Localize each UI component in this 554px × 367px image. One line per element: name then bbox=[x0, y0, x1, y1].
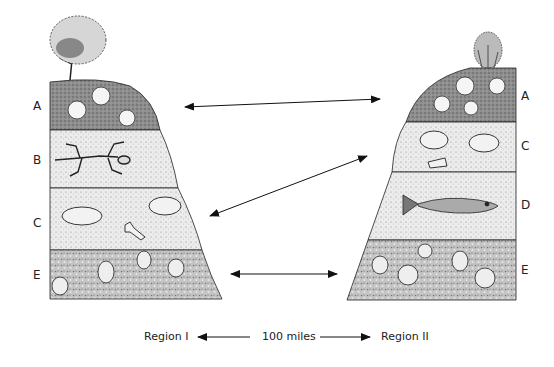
layer-label-a-region-1: A bbox=[33, 99, 41, 113]
region-1-caption: Region I bbox=[144, 330, 188, 343]
tree-icon bbox=[50, 16, 106, 80]
diagram-canvas: A B C E A C D E Region I 100 miles Regio… bbox=[0, 0, 554, 367]
arrow-c-to-c bbox=[210, 156, 367, 216]
layer-label-e-region-1: E bbox=[33, 268, 41, 282]
region-2-column bbox=[347, 32, 516, 300]
layer-label-b-region-1: B bbox=[33, 153, 41, 167]
layer-e-region-1 bbox=[50, 250, 222, 299]
shrub-icon bbox=[474, 32, 502, 68]
strata-diagram bbox=[0, 0, 554, 367]
arrow-a-to-a bbox=[185, 99, 380, 107]
layer-label-e-region-2: E bbox=[521, 263, 529, 277]
layer-a-region-1 bbox=[50, 80, 160, 130]
region-1-column bbox=[50, 16, 222, 299]
layer-label-d-region-2: D bbox=[521, 198, 530, 212]
correlation-arrows bbox=[185, 99, 380, 274]
layer-a-region-2 bbox=[406, 68, 516, 122]
layer-label-c-region-2: C bbox=[521, 139, 529, 153]
distance-caption: 100 miles bbox=[262, 330, 316, 343]
layer-label-c-region-1: C bbox=[33, 216, 41, 230]
layer-label-a-region-2: A bbox=[521, 89, 529, 103]
region-2-caption: Region II bbox=[381, 330, 429, 343]
